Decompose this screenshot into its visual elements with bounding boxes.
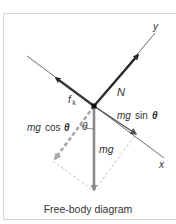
- friction-label: f k: [68, 94, 77, 106]
- normal-force-arrow: [94, 55, 138, 106]
- mg-cos-theta-label: mg cos θ: [27, 122, 70, 133]
- normal-force-label: N: [117, 86, 125, 98]
- x-axis-label: x: [158, 159, 165, 170]
- svg-text:k: k: [73, 99, 77, 106]
- svg-text:f: f: [68, 94, 72, 105]
- weight-label: mg: [99, 143, 114, 155]
- svg-text:θ: θ: [152, 110, 158, 121]
- mg-sin-theta-label: mg sin θ: [117, 110, 158, 121]
- svg-text:sin: sin: [135, 110, 148, 121]
- theta-angle-label: θ: [82, 121, 88, 132]
- free-body-diagram: y x N f k mg sin θ mg cos θ θ mg: [0, 0, 176, 224]
- y-axis-label: y: [152, 21, 159, 32]
- mg-cos-theta-arrow: [55, 106, 94, 159]
- object-point: [92, 104, 97, 109]
- figure-caption: Free-body diagram: [0, 203, 176, 215]
- svg-text:mg: mg: [117, 110, 131, 121]
- svg-text:mg: mg: [27, 122, 41, 133]
- svg-text:θ: θ: [64, 122, 70, 133]
- svg-text:cos: cos: [45, 122, 61, 133]
